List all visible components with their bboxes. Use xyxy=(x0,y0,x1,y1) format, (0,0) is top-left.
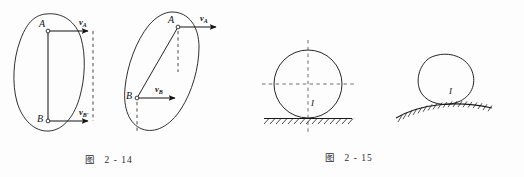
figure-2-15-caption: 图2 - 15 xyxy=(325,150,373,164)
right-point-A-marker xyxy=(176,25,180,29)
caption-prefix-2-15: 图 xyxy=(325,153,336,163)
fig-2-15-oval-panel xyxy=(396,54,492,122)
left-point-A-marker xyxy=(46,29,50,33)
right-point-B-marker xyxy=(135,96,139,100)
caption-number-2-15: 2 - 15 xyxy=(345,153,373,163)
figure-2-14-caption: 图2 - 14 xyxy=(85,152,133,166)
fig214-left-point-A-label: A xyxy=(39,18,45,29)
circle-ground-hatching xyxy=(264,119,353,125)
vA-subscript: A xyxy=(83,22,87,28)
oval-ground-hatching xyxy=(398,101,492,122)
fig214-left-point-B-label: B xyxy=(37,113,43,124)
right-body-outline xyxy=(125,12,199,130)
fig-2-15-circle-panel xyxy=(262,40,354,133)
fig214-right-vector-vA-label: vA xyxy=(200,13,208,24)
fig214-right-point-A-label: A xyxy=(168,14,174,25)
vA-subscript-right: A xyxy=(204,18,208,24)
figure-sheet: A B vA vB' A B vA vB I I 图2 - 14 图2 - 15 xyxy=(0,0,524,177)
caption-prefix-2-14: 图 xyxy=(85,155,96,165)
fig215-circle-contact-point-label: I xyxy=(311,98,314,108)
vBprime-subscript: B' xyxy=(83,112,89,118)
left-point-B-marker xyxy=(46,119,50,123)
fig214-left-vector-vA-label: vA xyxy=(79,17,87,28)
fig215-oval-contact-point-label: I xyxy=(449,86,452,96)
vB-subscript: B xyxy=(159,89,163,95)
fig214-left-vector-vB-prime-label: vB' xyxy=(79,107,88,118)
fig214-right-vector-vB-label: vB xyxy=(155,84,163,95)
oval-body xyxy=(418,54,474,104)
fig214-right-point-B-label: B xyxy=(126,90,132,101)
fig-2-14-right-panel xyxy=(125,12,216,133)
caption-number-2-14: 2 - 14 xyxy=(105,155,133,165)
